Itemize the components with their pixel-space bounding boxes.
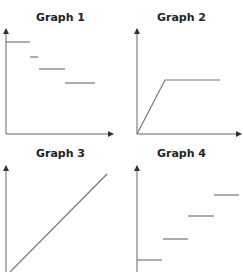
graph-4-steps bbox=[137, 195, 239, 260]
graph-1-segments bbox=[6, 42, 95, 83]
graph-3 bbox=[6, 166, 107, 272]
graph-2 bbox=[137, 29, 241, 134]
graph-2-line bbox=[137, 80, 220, 134]
graphs-canvas bbox=[0, 0, 243, 272]
graph-1 bbox=[6, 29, 113, 134]
graph-3-line bbox=[10, 174, 107, 272]
graph-4 bbox=[137, 166, 239, 272]
